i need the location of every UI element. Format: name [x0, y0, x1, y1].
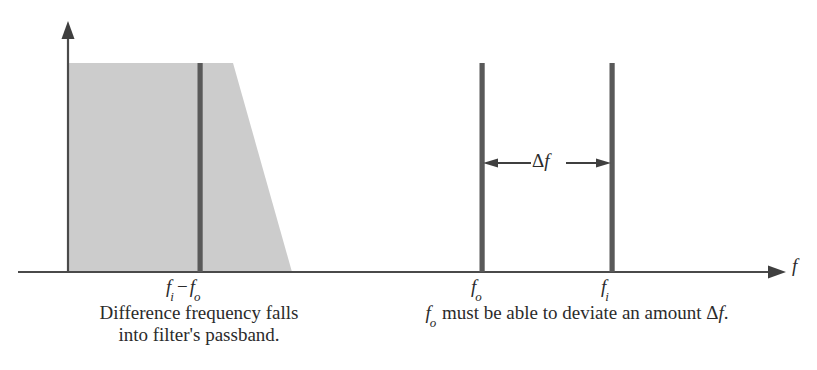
- bar-fo: [480, 63, 485, 272]
- filter-passband-region: [68, 63, 292, 272]
- y-axis-arrow-icon: [62, 21, 75, 39]
- delta-f-arrow-left-head-icon: [483, 159, 498, 168]
- x-axis-arrow-icon: [768, 266, 786, 279]
- bar-fi: [610, 63, 615, 272]
- bar-difference-frequency: [198, 63, 203, 272]
- diagram-canvas: [0, 0, 817, 370]
- frequency-spectrum-figure: f fi−fo fo fi Δf Difference frequency fa…: [0, 0, 817, 370]
- delta-f-arrow-right-head-icon: [596, 159, 611, 168]
